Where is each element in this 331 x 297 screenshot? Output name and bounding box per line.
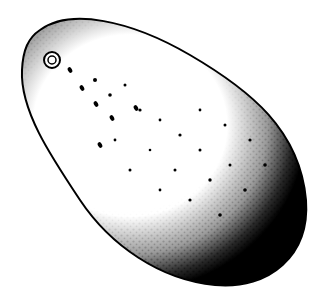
illustration-canvas: [0, 0, 331, 297]
avocado-illustration: [0, 0, 331, 297]
avocado-body: [0, 0, 331, 297]
stem-end: [44, 52, 60, 68]
